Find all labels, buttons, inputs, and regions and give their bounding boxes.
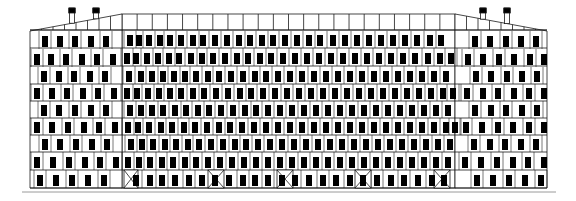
center-window-f3-w21 <box>368 88 374 99</box>
center-window-f8-w3 <box>172 175 178 186</box>
center-window-f1-w28 <box>448 53 454 64</box>
right-wing-window-f5-w4 <box>526 122 532 133</box>
right-chimney-2-cap <box>504 8 511 13</box>
center-window-f4-w4 <box>172 105 178 116</box>
center-window-f6-w10 <box>243 139 249 150</box>
left-wing-window-f2-w1 <box>56 71 62 82</box>
left-wing-window-f3-w0 <box>34 88 40 99</box>
center-window-f4-w17 <box>325 105 331 116</box>
left-wing-window-f0-w4 <box>103 36 109 47</box>
center-window-f8-w1 <box>147 175 153 186</box>
center-window-f7-w9 <box>229 157 235 168</box>
center-window-f0-w5 <box>178 35 184 46</box>
center-window-f8-w13 <box>306 175 312 186</box>
left-wing-window-f5-w2 <box>65 122 71 133</box>
center-window-f3-w5 <box>178 88 184 99</box>
center-window-f1-w18 <box>328 53 334 64</box>
center-window-f6-w19 <box>351 139 357 150</box>
center-window-f1-w3 <box>155 53 161 64</box>
center-window-f0-w2 <box>146 35 152 46</box>
left-wing-window-f3-w2 <box>64 88 70 99</box>
center-window-f6-w13 <box>279 139 285 150</box>
center-window-f2-w4 <box>171 71 177 82</box>
center-window-f0-w7 <box>200 35 206 46</box>
center-window-f6-w27 <box>447 139 453 150</box>
center-window-f1-w23 <box>388 53 394 64</box>
right-wing-window-f1-w4 <box>527 54 533 65</box>
center-window-f5-w2 <box>146 122 152 133</box>
center-window-f0-w15 <box>294 35 300 46</box>
center-window-f4-w26 <box>433 105 439 116</box>
center-window-f0-w23 <box>390 35 396 46</box>
center-window-f7-w19 <box>349 157 355 168</box>
right-wing-window-f1-w5 <box>541 54 547 65</box>
left-wing-window-f1-w4 <box>94 54 100 65</box>
center-window-f2-w8 <box>216 71 222 82</box>
center-window-f6-w2 <box>150 139 156 150</box>
right-wing-window-f5-w0 <box>463 122 469 133</box>
center-window-f1-w6 <box>188 53 194 64</box>
right-wing-window-f0-w0 <box>472 36 478 47</box>
center-window-f0-w19 <box>342 35 348 46</box>
center-window-f6-w3 <box>162 139 168 150</box>
center-window-f2-w19 <box>347 71 353 82</box>
right-wing-window-f0-w4 <box>533 36 539 47</box>
left-wing-window-f8-w1 <box>53 175 59 186</box>
center-window-f2-w13 <box>275 71 281 82</box>
right-wing-window-f1-w3 <box>511 54 517 65</box>
center-window-f7-w14 <box>289 157 295 168</box>
left-wing-window-f7-w3 <box>82 157 88 168</box>
center-window-f0-w22 <box>378 35 384 46</box>
left-wing-window-f5-w5 <box>112 122 118 133</box>
right-wing-window-f1-w2 <box>496 54 502 65</box>
left-wing-window-f7-w2 <box>66 157 72 168</box>
left-wing-window-f4-w3 <box>88 105 94 116</box>
right-wing-window-f0-w3 <box>518 36 524 47</box>
center-window-f7-w0 <box>125 157 131 168</box>
right-wing-window-f7-w3 <box>510 157 516 168</box>
right-wing-window-f2-w1 <box>488 71 494 82</box>
center-window-f1-w17 <box>316 53 322 64</box>
center-window-f8-w18 <box>374 175 380 186</box>
left-wing-window-f0-w1 <box>57 36 63 47</box>
center-window-f8-w5 <box>199 175 205 186</box>
center-window-f2-w15 <box>299 71 305 82</box>
center-window-f3-w28 <box>450 88 456 99</box>
center-window-f7-w5 <box>182 157 188 168</box>
center-window-f8-w2 <box>159 175 165 186</box>
left-wing-window-f7-w5 <box>113 157 119 168</box>
center-window-f8-w19 <box>388 175 394 186</box>
right-wing-window-f4-w4 <box>534 105 540 116</box>
center-window-f4-w7 <box>206 105 212 116</box>
right-wing-window-f6-w2 <box>502 139 508 150</box>
center-window-f2-w0 <box>126 71 132 82</box>
center-window-f1-w4 <box>166 53 172 64</box>
center-window-f0-w4 <box>167 35 173 46</box>
center-window-f6-w17 <box>327 139 333 150</box>
center-window-f5-w11 <box>251 122 257 133</box>
center-window-f0-w17 <box>317 35 323 46</box>
center-window-f5-w17 <box>323 122 329 133</box>
center-window-f3-w25 <box>416 88 422 99</box>
center-window-f3-w1 <box>134 88 140 99</box>
center-window-f7-w25 <box>421 157 427 168</box>
right-wing-window-f7-w5 <box>541 157 547 168</box>
center-window-f4-w23 <box>397 105 403 116</box>
left-wing-window-f8-w0 <box>37 175 43 186</box>
center-window-f8-w22 <box>429 175 435 186</box>
center-window-f4-w13 <box>277 105 283 116</box>
center-window-f0-w25 <box>414 35 420 46</box>
center-window-f8-w10 <box>265 175 271 186</box>
center-window-f3-w0 <box>124 88 130 99</box>
center-window-f6-w11 <box>255 139 261 150</box>
center-window-f5-w18 <box>335 122 341 133</box>
center-window-f5-w8 <box>216 122 222 133</box>
center-window-f1-w20 <box>352 53 358 64</box>
center-window-f7-w26 <box>433 157 439 168</box>
center-window-f5-w28 <box>452 122 458 133</box>
center-window-f5-w16 <box>311 122 317 133</box>
center-window-f6-w21 <box>375 139 381 150</box>
left-wing-window-f5-w3 <box>81 122 87 133</box>
center-window-f5-w6 <box>192 122 198 133</box>
right-wing-window-f4-w3 <box>519 105 525 116</box>
